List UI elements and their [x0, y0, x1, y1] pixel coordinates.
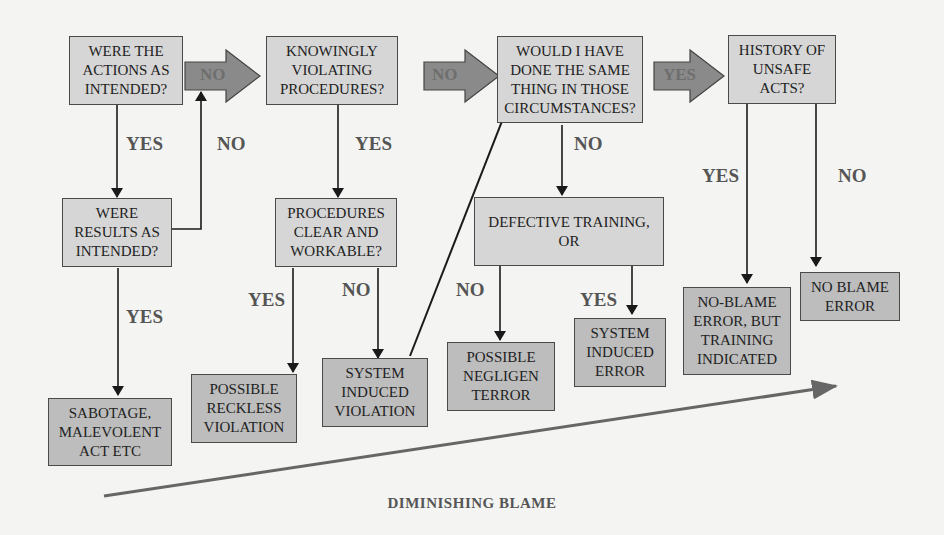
arrow-label-q1-no: NO [200, 65, 226, 85]
edge-label-q1-yes: YES [126, 133, 163, 155]
edge-label-q7-yes: YES [580, 289, 617, 311]
diminishing-blame-label: DIMINISHING BLAME [0, 495, 944, 512]
edge-label-q6-no: NO [342, 279, 371, 301]
question-defective-training: DEFECTIVE TRAINING, OR [474, 197, 664, 266]
edge-label-q4-no: NO [838, 165, 867, 187]
outcome-possible-negligent-error: POSSIBLE NEGLIGEN TERROR [447, 342, 555, 411]
edge-label-q5-yes: YES [126, 306, 163, 328]
question-history-unsafe-acts: HISTORY OF UNSAFE ACTS? [728, 35, 836, 104]
edge-label-q7-no: NO [456, 279, 485, 301]
question-would-i-have-done-same: WOULD I HAVE DONE THE SAME THING IN THOS… [497, 36, 643, 123]
arrow-label-q2-no: NO [432, 65, 458, 85]
outcome-system-induced-error: SYSTEM INDUCED ERROR [574, 318, 666, 387]
edge-label-q4-yes: YES [702, 165, 739, 187]
edge-label-q5-no: NO [217, 133, 246, 155]
outcome-no-blame-training: NO-BLAME ERROR, BUT TRAINING INDICATED [683, 287, 791, 375]
outcome-reckless-violation: POSSIBLE RECKLESS VIOLATION [191, 374, 297, 443]
edge-label-q6-yes: YES [248, 289, 285, 311]
question-knowingly-violating: KNOWINGLY VIOLATING PROCEDURES? [266, 36, 398, 105]
outcome-no-blame-error: NO BLAME ERROR [800, 272, 900, 321]
edge-label-q3-no: NO [574, 133, 603, 155]
edge-label-q2-yes: YES [355, 133, 392, 155]
outcome-sabotage: SABOTAGE, MALEVOLENT ACT ETC [48, 398, 172, 466]
question-actions-intended: WERE THE ACTIONS AS INTENDED? [69, 36, 183, 105]
outcome-system-induced-violation: SYSTEM INDUCED VIOLATION [322, 358, 428, 427]
question-results-intended: WERE RESULTS AS INTENDED? [62, 198, 172, 267]
arrow-label-q3-yes: YES [663, 65, 696, 85]
question-procedures-clear: PROCEDURES CLEAR AND WORKABLE? [275, 198, 397, 267]
